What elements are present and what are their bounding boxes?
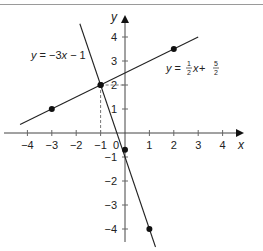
y-tick-label: 3 (111, 55, 117, 67)
y-tick-label: −3 (104, 199, 117, 211)
y-tick-label: 1 (111, 103, 117, 115)
equation-label-steep: y = −3x − 1 (30, 49, 86, 61)
x-tick-label: −3 (46, 139, 59, 151)
coordinate-plot: xy−4−3−2−101234−4−3−2−11234y = −3x − 1y … (0, 0, 263, 251)
x-tick-label: −4 (21, 139, 34, 151)
y-tick-label: 4 (111, 31, 117, 43)
x-tick-label: 4 (220, 139, 226, 151)
y-tick-label: −2 (104, 175, 117, 187)
data-point (122, 147, 128, 153)
x-tick-label: −1 (94, 139, 107, 151)
x-tick-label: 2 (171, 139, 177, 151)
equation-label-shallow: y = (165, 62, 181, 74)
equation-plus: + (199, 62, 205, 74)
line-series-2 (80, 24, 156, 247)
x-axis-arrow-icon (236, 129, 244, 137)
data-point (98, 82, 104, 88)
y-tick-label: −4 (104, 223, 117, 235)
y-axis-label: y (110, 10, 118, 24)
x-tick-label: 3 (195, 139, 201, 151)
data-point (49, 106, 55, 112)
x-tick-label: 1 (146, 139, 152, 151)
data-point (146, 226, 152, 232)
fraction-five-halves-num: 5 (214, 60, 218, 67)
y-tick-label: −1 (104, 151, 117, 163)
x-tick-label: 0 (113, 139, 119, 151)
y-axis-arrow-icon (121, 15, 129, 23)
data-point (171, 46, 177, 52)
fraction-half-num: 1 (187, 60, 191, 67)
fraction-half-den: 2 (187, 69, 191, 76)
fraction-five-halves-den: 2 (214, 69, 218, 76)
x-tick-label: −2 (70, 139, 83, 151)
x-axis-label: x (237, 138, 245, 152)
equation-x: x (192, 62, 199, 74)
